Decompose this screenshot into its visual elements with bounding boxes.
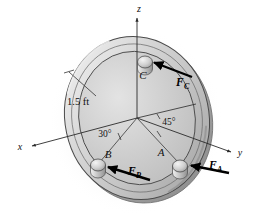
post-label-B: B (105, 148, 112, 160)
post-A (173, 160, 188, 179)
x-axis-label: x (17, 141, 23, 152)
post-C-top (138, 56, 153, 68)
angle-30-label: 30° (98, 129, 112, 139)
angle-45-label: 45° (162, 117, 176, 127)
radius-dimension-label: 1.5 ft (67, 96, 89, 107)
post-label-A: A (157, 146, 165, 158)
force-label-FB-subscript: B (135, 171, 142, 180)
z-axis-label: z (136, 3, 141, 14)
post-label-C: C (139, 69, 147, 81)
force-label-FA-subscript: A (216, 165, 223, 174)
post-A-top (173, 160, 188, 172)
figure-container: x y z C B A 1.5 ft 30° 45° F C F B F A (0, 0, 267, 215)
force-label-FC-letter: F (175, 76, 184, 88)
y-axis-label: y (237, 147, 243, 158)
post-B (91, 159, 106, 178)
force-label-FA-letter: F (208, 159, 217, 171)
force-label-FB-letter: F (127, 165, 136, 177)
statics-diagram: x y z C B A 1.5 ft 30° 45° F C F B F A (0, 0, 267, 215)
force-label-FC-subscript: C (184, 82, 190, 91)
post-B-top (91, 159, 106, 171)
